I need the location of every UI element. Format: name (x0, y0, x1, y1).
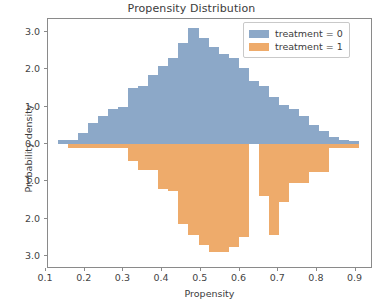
y-tick-mark (44, 143, 47, 144)
y-tick-label: 3.0 (25, 249, 40, 260)
legend-swatch-treatment-0 (249, 30, 269, 38)
y-tick-mark (44, 255, 47, 256)
legend-item-treatment-1: treatment = 1 (249, 40, 343, 53)
x-tick-label: 0.1 (38, 272, 53, 283)
x-axis-label: Propensity (47, 288, 372, 299)
y-axis-label: Probability density (23, 69, 34, 229)
x-tick-mark (277, 268, 278, 271)
x-tick-label: 0.7 (270, 272, 285, 283)
y-tick-mark (44, 180, 47, 181)
x-tick-label: 0.6 (231, 272, 246, 283)
legend-label-treatment-1: treatment = 1 (275, 41, 343, 52)
x-tick-mark (316, 268, 317, 271)
y-tick-label: 3.0 (25, 26, 40, 37)
x-tick-label: 0.3 (115, 272, 130, 283)
y-tick-mark (44, 68, 47, 69)
y-tick-mark (44, 106, 47, 107)
x-tick-mark (355, 268, 356, 271)
legend-swatch-treatment-1 (249, 43, 269, 51)
x-tick-mark (84, 268, 85, 271)
x-tick-label: 0.9 (347, 272, 362, 283)
x-tick-label: 0.8 (308, 272, 323, 283)
x-tick-label: 0.4 (154, 272, 169, 283)
x-tick-mark (200, 268, 201, 271)
x-tick-mark (122, 268, 123, 271)
y-tick-mark (44, 218, 47, 219)
propensity-distribution-figure: Propensity Distribution 3.02.01.00.01.02… (0, 0, 383, 308)
x-tick-label: 0.5 (192, 272, 207, 283)
clipped-caption-fragment (0, 301, 383, 308)
chart-title: Propensity Distribution (0, 2, 383, 15)
legend-label-treatment-0: treatment = 0 (275, 28, 343, 39)
x-tick-label: 0.2 (76, 272, 91, 283)
legend: treatment = 0 treatment = 1 (243, 22, 350, 58)
x-tick-mark (45, 268, 46, 271)
legend-item-treatment-0: treatment = 0 (249, 27, 343, 40)
x-tick-mark (239, 268, 240, 271)
y-tick-mark (44, 31, 47, 32)
x-tick-mark (161, 268, 162, 271)
